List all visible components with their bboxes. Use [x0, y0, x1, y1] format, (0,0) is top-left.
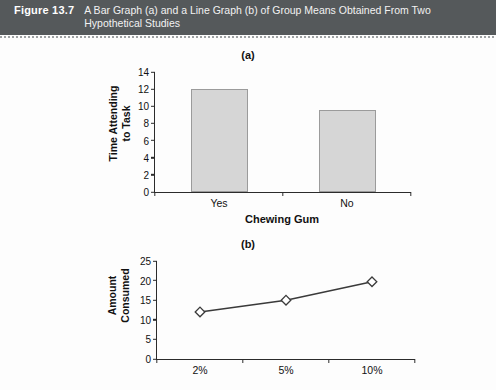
line-chart-x-tick-mark — [414, 359, 415, 363]
bar-no — [319, 110, 376, 192]
line-chart-x-tick-mark — [328, 359, 329, 363]
bar-chart-x-tick-label: No — [340, 197, 353, 209]
figure-header-row: Figure 13.7 A Bar Graph (a) and a Line G… — [14, 4, 486, 30]
bar-chart-x-tick-mark — [154, 192, 155, 196]
bar-chart-y-axis-label-line1: Time Attending — [107, 86, 119, 162]
line-chart-y-tick-label: 10 — [140, 314, 157, 325]
bar-chart-y-axis-label: Time Attending to Task — [107, 76, 132, 172]
bar-chart-y-tick-label: 2 — [143, 169, 155, 180]
line-chart-panel-b: Amount Consumed 05101520252%5%10% — [108, 255, 428, 390]
line-chart-x-tick-label: 10% — [361, 364, 382, 376]
line-chart-y-tick-label: 0 — [145, 354, 157, 365]
bar-chart-y-tick-label: 6 — [143, 135, 155, 146]
line-chart-x-tick-mark — [156, 359, 157, 363]
bar-chart-x-tick-mark — [282, 192, 283, 196]
bar-chart-y-tick-label: 14 — [138, 67, 155, 78]
line-chart-y-tick-label: 25 — [140, 256, 157, 267]
line-chart-y-tick-label: 15 — [140, 295, 157, 306]
bar-chart-x-tick-label: Yes — [210, 197, 227, 209]
line-chart-plot-area: 05101520252%5%10% — [156, 261, 415, 360]
bar-chart-y-axis-label-line2: to Task — [119, 106, 131, 142]
bar-chart-x-axis-label: Chewing Gum — [154, 213, 410, 225]
panel-b-label: (b) — [0, 238, 496, 250]
line-chart-marker-2pct — [195, 307, 205, 317]
line-chart-x-tick-label: 2% — [192, 364, 207, 376]
bar-yes — [191, 89, 248, 192]
line-chart-y-tick-label: 5 — [145, 334, 157, 345]
header-divider-rule — [0, 36, 496, 38]
bar-chart-panel-a: Time Attending to Task 02468101214YesNo … — [104, 66, 424, 226]
line-chart-marker-10pct — [367, 277, 377, 287]
panel-a-label: (a) — [0, 49, 496, 61]
figure-number: Figure 13.7 — [14, 4, 74, 16]
figure-caption: A Bar Graph (a) and a Line Graph (b) of … — [84, 4, 452, 30]
bar-chart-y-tick-label: 0 — [143, 187, 155, 198]
figure-header-banner: Figure 13.7 A Bar Graph (a) and a Line G… — [0, 0, 496, 35]
line-chart-series — [157, 261, 415, 359]
bar-chart-y-tick-label: 12 — [138, 84, 155, 95]
line-chart-y-axis-label: Amount Consumed — [106, 256, 131, 336]
bar-chart-y-tick-label: 8 — [143, 118, 155, 129]
line-chart-y-axis-label-line2: Consumed — [118, 268, 130, 322]
bar-chart-y-tick-label: 10 — [138, 101, 155, 112]
line-chart-y-axis-label-line1: Amount — [106, 276, 118, 316]
line-chart-y-tick-label: 20 — [140, 275, 157, 286]
line-chart-x-tick-mark — [242, 359, 243, 363]
line-chart-x-tick-label: 5% — [278, 364, 293, 376]
bar-chart-plot-area: 02468101214YesNo — [154, 72, 411, 193]
bar-chart-y-tick-label: 4 — [143, 152, 155, 163]
line-chart-marker-5pct — [281, 295, 291, 305]
bar-chart-x-tick-mark — [410, 192, 411, 196]
